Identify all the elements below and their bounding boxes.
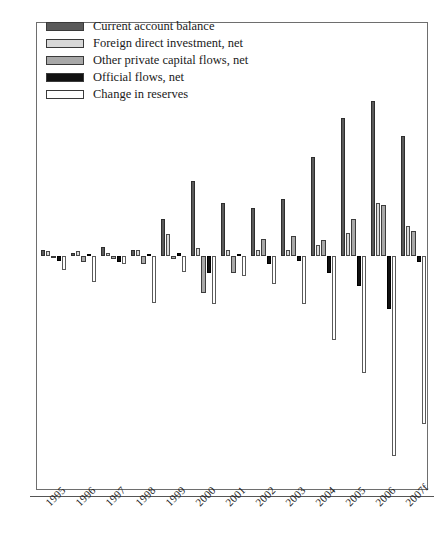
bar	[332, 256, 337, 340]
legend-item: Other private capital flows, net	[46, 52, 248, 68]
bar	[111, 256, 116, 259]
bar	[281, 199, 286, 256]
bar	[341, 118, 346, 256]
bar	[272, 256, 277, 284]
bar	[251, 208, 256, 256]
bar	[231, 256, 236, 273]
bar	[381, 205, 386, 256]
bar	[106, 253, 111, 256]
bar	[101, 247, 106, 256]
bar	[92, 256, 97, 282]
bar	[311, 157, 316, 256]
legend-item-label: Foreign direct investment, net	[93, 36, 243, 50]
bar	[117, 256, 122, 262]
bar	[57, 256, 62, 261]
legend-swatch-reserves	[46, 90, 84, 99]
legend-swatch-official	[46, 73, 84, 82]
bar	[166, 234, 171, 256]
bar	[362, 256, 367, 373]
bar	[297, 256, 302, 261]
bar	[62, 256, 67, 270]
legend-item-label: Other private capital flows, net	[93, 53, 248, 67]
bar	[171, 256, 176, 259]
legend-item: Official flows, net	[46, 69, 248, 85]
bar	[81, 256, 86, 262]
bar	[152, 256, 157, 303]
bar	[357, 256, 362, 286]
bar	[371, 101, 376, 256]
legend-item-label: Official flows, net	[93, 70, 184, 84]
bar	[286, 250, 291, 256]
bar	[46, 251, 51, 256]
bar	[71, 253, 76, 256]
bar	[291, 236, 296, 256]
bar-group	[397, 23, 427, 489]
bar	[256, 250, 261, 256]
bar	[406, 226, 411, 256]
legend-swatch-other-private	[46, 56, 84, 65]
bar	[221, 203, 226, 256]
bar	[122, 256, 127, 264]
bar	[147, 254, 152, 256]
bar	[201, 256, 206, 293]
bar	[261, 239, 266, 256]
bar	[76, 251, 81, 256]
bar	[376, 203, 381, 256]
legend-item-label: Change in reserves	[93, 87, 188, 101]
chart-legend: Current account balanceForeign direct in…	[42, 14, 254, 108]
bar	[196, 248, 201, 256]
bar	[177, 253, 182, 256]
bar	[87, 254, 92, 256]
bar	[411, 231, 416, 256]
bar	[401, 136, 406, 256]
bar	[302, 256, 307, 304]
bar	[131, 250, 136, 256]
bar	[207, 256, 212, 273]
bar	[237, 254, 242, 256]
bar	[327, 256, 332, 273]
bar-group	[337, 23, 367, 489]
bar	[351, 219, 356, 256]
bar	[321, 240, 326, 256]
bar	[346, 233, 351, 256]
bar-group	[277, 23, 307, 489]
legend-item-label: Current account balance	[93, 19, 214, 33]
bar	[161, 219, 166, 256]
bar	[387, 256, 392, 309]
bar	[392, 256, 397, 456]
bar	[267, 256, 272, 264]
bar	[41, 250, 46, 256]
bar-group	[307, 23, 337, 489]
legend-swatch-fdi	[46, 39, 84, 48]
bar	[422, 256, 427, 424]
legend-item: Foreign direct investment, net	[46, 35, 248, 51]
bar	[136, 250, 141, 256]
bar	[316, 245, 321, 256]
bar	[226, 250, 231, 256]
legend-item: Change in reserves	[46, 86, 248, 102]
chart-container: 150100500-50-100-150 1995199619971998199…	[0, 0, 434, 545]
bar	[141, 256, 146, 264]
bar	[191, 181, 196, 256]
bar	[51, 256, 56, 258]
bar-group	[367, 23, 397, 489]
legend-item: Current account balance	[46, 18, 248, 34]
legend-swatch-current-account	[46, 22, 84, 31]
bar	[182, 256, 187, 272]
bar	[242, 256, 247, 276]
bar	[417, 256, 422, 262]
bar	[212, 256, 217, 304]
